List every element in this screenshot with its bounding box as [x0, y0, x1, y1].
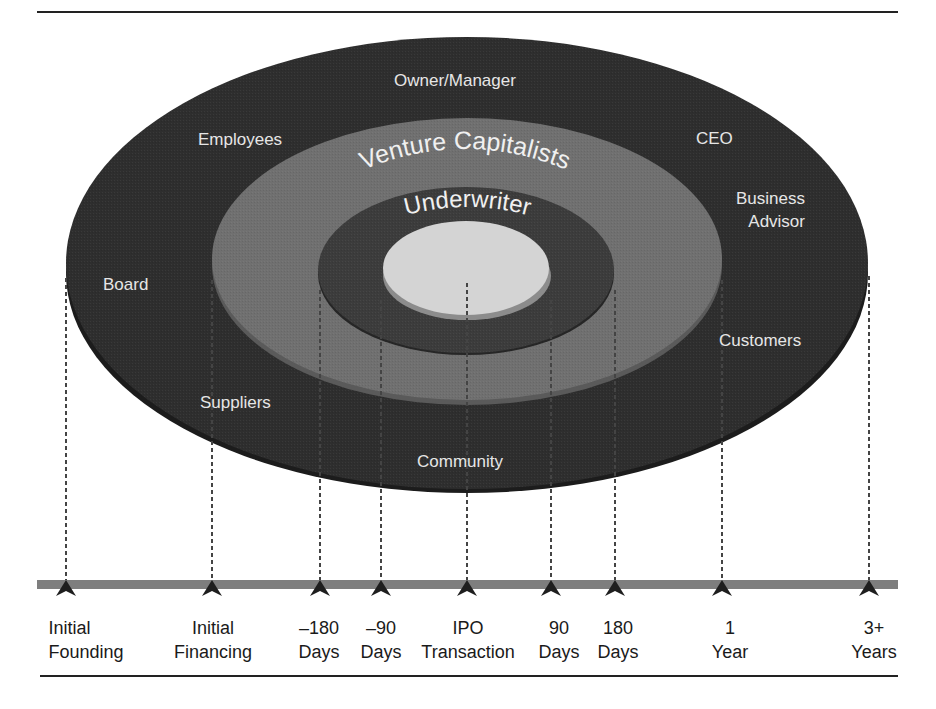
label-ceo: CEO: [696, 129, 733, 149]
milestone-line2: Years: [851, 640, 896, 664]
milestone-line2: Days: [597, 640, 638, 664]
milestone-line1: IPO: [421, 616, 514, 640]
milestone-minus-180-days: –180 Days: [298, 616, 339, 664]
milestone-line2: Transaction: [421, 640, 514, 664]
label-board: Board: [103, 275, 148, 295]
milestone-3-plus-years: 3+ Years: [851, 616, 896, 664]
milestone-1-year: 1 Year: [712, 616, 748, 664]
stakeholder-diagram: Venture Capitalists Underwriter: [0, 0, 936, 709]
milestone-minus-90-days: –90 Days: [360, 616, 401, 664]
milestone-line2: Days: [298, 640, 339, 664]
business-advisor-line2: Advisor: [736, 210, 805, 233]
milestone-line1: Initial: [174, 616, 252, 640]
milestone-ipo-transaction: IPO Transaction: [421, 616, 514, 664]
milestone-line1: Initial: [48, 616, 123, 640]
milestone-initial-financing: Initial Financing: [174, 616, 252, 664]
bottom-rule: [40, 675, 898, 677]
milestone-line2: Days: [360, 640, 401, 664]
label-community: Community: [417, 452, 503, 472]
label-suppliers: Suppliers: [200, 393, 271, 413]
label-owner-manager: Owner/Manager: [394, 71, 516, 91]
business-advisor-line1: Business: [736, 187, 805, 210]
milestone-line1: 90: [538, 616, 579, 640]
milestone-line2: Days: [538, 640, 579, 664]
milestone-initial-founding: Initial Founding: [48, 616, 123, 664]
milestone-line2: Year: [712, 640, 748, 664]
milestone-line1: 180: [597, 616, 638, 640]
label-employees: Employees: [198, 130, 282, 150]
milestone-line1: 1: [712, 616, 748, 640]
milestone-line1: –90: [360, 616, 401, 640]
milestone-90-days: 90 Days: [538, 616, 579, 664]
label-business-advisor: Business Advisor: [736, 187, 805, 233]
milestone-line1: 3+: [851, 616, 896, 640]
milestone-line1: –180: [298, 616, 339, 640]
milestone-180-days: 180 Days: [597, 616, 638, 664]
label-customers: Customers: [719, 331, 801, 351]
milestone-line2: Financing: [174, 640, 252, 664]
milestone-line2: Founding: [48, 640, 123, 664]
